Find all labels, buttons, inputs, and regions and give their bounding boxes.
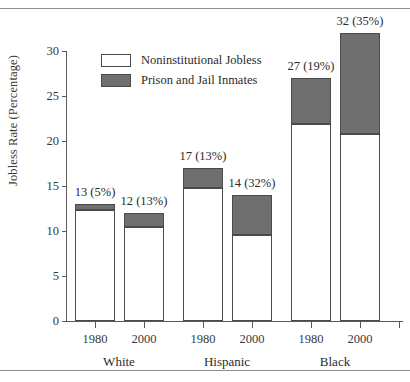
bar-segment-prison-jail-inmates	[75, 204, 115, 210]
bar-value-label: 27 (19%)	[288, 59, 335, 74]
x-year-label-hispanic-1980: 1980	[191, 332, 216, 347]
bar-white-1980[interactable]: 13 (5%)	[75, 204, 115, 321]
y-tick-label-25: 25	[47, 89, 60, 104]
x-year-label-white-2000: 2000	[132, 332, 157, 347]
x-tick-white-1980	[95, 321, 96, 328]
x-tick-black-2000	[360, 321, 361, 328]
bar-segment-prison-jail-inmates	[340, 33, 380, 134]
legend-label: Noninstitutional Jobless	[141, 53, 262, 68]
bar-segment-noninstitutional-jobless	[124, 227, 164, 321]
bar-hispanic-2000[interactable]: 14 (32%)	[232, 195, 272, 321]
chart-legend: Noninstitutional Jobless Prison and Jail…	[101, 52, 291, 92]
legend-swatch-icon	[101, 54, 131, 67]
x-year-label-hispanic-2000: 2000	[240, 332, 265, 347]
x-year-label-black-1980: 1980	[299, 332, 324, 347]
bar-value-label: 14 (32%)	[229, 176, 276, 191]
bar-segment-noninstitutional-jobless	[232, 235, 272, 321]
legend-label: Prison and Jail Inmates	[141, 73, 257, 88]
bar-segment-prison-jail-inmates	[232, 195, 272, 235]
bar-segment-prison-jail-inmates	[183, 168, 223, 188]
bar-segment-noninstitutional-jobless	[183, 188, 223, 321]
legend-swatch-icon	[101, 74, 131, 87]
bar-hispanic-1980[interactable]: 17 (13%)	[183, 168, 223, 321]
bar-segment-prison-jail-inmates	[124, 213, 164, 227]
x-group-label-white: White	[103, 354, 135, 370]
jobless-rate-chart: Jobless Rate (Percentage) 30 25 20 15 10…	[0, 0, 410, 382]
y-tick-label-15: 15	[47, 179, 60, 194]
bar-segment-prison-jail-inmates	[291, 78, 331, 124]
y-tick-label-5: 5	[53, 269, 59, 284]
bar-segment-noninstitutional-jobless	[291, 124, 331, 321]
bar-black-1980[interactable]: 27 (19%)	[291, 78, 331, 321]
legend-item-prison-jail-inmates: Prison and Jail Inmates	[101, 72, 291, 89]
y-tick-label-20: 20	[47, 134, 60, 149]
x-tick-white-2000	[144, 321, 145, 328]
x-tick-black-1980	[311, 321, 312, 328]
legend-item-noninstitutional-jobless: Noninstitutional Jobless	[101, 52, 291, 69]
y-axis-title: Jobless Rate (Percentage)	[6, 55, 21, 186]
y-tick-label-0: 0	[53, 314, 59, 329]
bar-value-label: 17 (13%)	[180, 149, 227, 164]
x-group-label-hispanic: Hispanic	[204, 354, 250, 370]
x-tick-end	[399, 321, 400, 328]
y-tick-label-10: 10	[47, 224, 60, 239]
x-tick-hispanic-2000	[252, 321, 253, 328]
bar-segment-noninstitutional-jobless	[340, 134, 380, 321]
bar-black-2000[interactable]: 32 (35%)	[340, 33, 380, 321]
y-tick-label-30: 30	[47, 44, 60, 59]
bar-value-label: 12 (13%)	[121, 194, 168, 209]
bar-white-2000[interactable]: 12 (13%)	[124, 213, 164, 321]
bar-segment-noninstitutional-jobless	[75, 210, 115, 321]
bar-value-label: 32 (35%)	[337, 14, 384, 29]
bar-value-label: 13 (5%)	[75, 185, 116, 200]
x-year-label-black-2000: 2000	[348, 332, 373, 347]
x-tick-hispanic-1980	[203, 321, 204, 328]
x-year-label-white-1980: 1980	[83, 332, 108, 347]
x-group-label-black: Black	[320, 354, 350, 370]
